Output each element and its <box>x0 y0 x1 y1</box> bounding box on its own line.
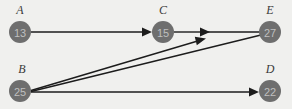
node-d[interactable]: 22 D <box>259 62 281 102</box>
edge-b-to-e-line-tail <box>31 35 261 92</box>
directed-graph-figure: 13 A 15 C 27 E 25 B <box>0 0 292 109</box>
edge-a-to-c-arrowhead <box>142 28 152 37</box>
node-e-value: 27 <box>264 27 276 39</box>
node-a-label: A <box>15 3 24 17</box>
node-c[interactable]: 15 C <box>152 3 174 43</box>
node-c-value: 15 <box>157 27 169 39</box>
edge-c-to-e <box>174 28 260 37</box>
edge-b-to-e <box>31 35 261 92</box>
node-a[interactable]: 13 A <box>9 3 31 43</box>
node-c-label: C <box>159 3 168 17</box>
edge-b-to-d <box>31 88 259 97</box>
node-b-value: 25 <box>14 86 26 98</box>
edge-b-to-e-arrowhead <box>195 37 206 45</box>
edge-a-to-c <box>31 28 152 37</box>
edge-b-to-d-arrowhead <box>249 88 259 97</box>
node-b[interactable]: 25 B <box>9 62 31 102</box>
graph-canvas: 13 A 15 C 27 E 25 B <box>0 0 292 109</box>
node-a-value: 13 <box>14 27 26 39</box>
edge-b-to-e-line <box>31 42 196 91</box>
node-d-value: 22 <box>264 86 276 98</box>
node-e[interactable]: 27 E <box>259 3 281 43</box>
node-b-label: B <box>18 62 26 76</box>
edge-group <box>31 28 261 97</box>
node-e-label: E <box>265 3 274 17</box>
node-d-label: D <box>265 62 275 76</box>
